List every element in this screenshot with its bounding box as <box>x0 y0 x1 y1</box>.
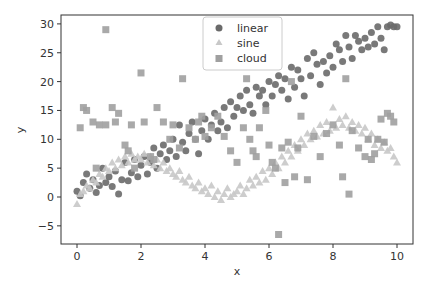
data-point <box>234 159 241 166</box>
data-point <box>307 72 314 79</box>
data-point <box>112 118 119 125</box>
data-point <box>214 127 221 134</box>
data-point <box>326 52 333 59</box>
data-point <box>381 46 388 53</box>
data-point <box>198 113 205 120</box>
data-point <box>365 43 372 50</box>
data-point <box>227 147 234 154</box>
data-point <box>330 64 337 71</box>
data-point <box>246 101 253 108</box>
data-point <box>266 142 273 149</box>
data-point <box>176 144 183 151</box>
data-point <box>166 147 173 154</box>
data-point <box>109 183 116 190</box>
data-point <box>243 87 250 94</box>
data-point <box>355 38 362 45</box>
y-axis-ticks: −5051015202530 <box>38 18 61 233</box>
data-point <box>336 46 343 53</box>
circle-marker-icon <box>216 25 223 32</box>
data-point <box>240 107 247 114</box>
data-point <box>310 133 317 140</box>
data-point <box>317 81 324 88</box>
data-point <box>346 43 353 50</box>
data-point <box>285 139 292 146</box>
data-point <box>272 165 279 172</box>
data-point <box>294 144 301 151</box>
y-tick-label: 5 <box>47 162 54 175</box>
data-point <box>329 104 337 111</box>
data-point <box>186 124 193 131</box>
data-point <box>90 118 97 125</box>
data-point <box>298 75 305 82</box>
x-axis-label: x <box>234 265 241 278</box>
data-point <box>221 104 228 111</box>
data-point <box>73 200 81 207</box>
data-point <box>275 72 282 79</box>
data-point <box>170 121 177 128</box>
data-point <box>138 162 145 169</box>
data-point <box>160 118 167 125</box>
data-point <box>358 46 365 53</box>
legend-label-cloud: cloud <box>237 52 267 65</box>
data-point <box>368 29 375 36</box>
data-point <box>362 153 369 160</box>
data-point <box>230 113 237 120</box>
data-point <box>381 139 388 146</box>
data-point <box>77 124 84 131</box>
data-point <box>83 170 90 177</box>
data-point <box>118 176 125 183</box>
data-point <box>304 55 311 62</box>
data-point <box>185 173 193 180</box>
x-tick-label: 10 <box>390 250 404 263</box>
data-point <box>83 107 90 114</box>
data-point <box>310 49 317 56</box>
y-tick-label: 25 <box>40 47 54 60</box>
y-tick-label: 0 <box>47 191 54 204</box>
data-point <box>323 130 330 137</box>
data-point <box>202 133 209 140</box>
data-point <box>301 93 308 100</box>
data-point <box>214 113 221 120</box>
scatter-chart: 0246810 −5051015202530 x y linear sine c… <box>0 0 436 289</box>
data-point <box>253 84 260 91</box>
legend-label-sine: sine <box>237 37 260 50</box>
data-point <box>243 75 250 82</box>
data-point <box>371 41 378 48</box>
data-point <box>237 93 244 100</box>
data-point <box>93 165 100 172</box>
data-point <box>298 113 305 120</box>
data-point <box>349 127 356 134</box>
data-point <box>314 61 321 68</box>
data-point <box>390 118 397 125</box>
data-point <box>221 133 228 140</box>
y-tick-label: 20 <box>40 76 54 89</box>
data-point <box>278 87 285 94</box>
data-point <box>259 87 266 94</box>
legend-label-linear: linear <box>237 22 269 35</box>
data-point <box>374 136 381 143</box>
data-point <box>102 121 109 128</box>
data-point <box>236 181 244 188</box>
data-point <box>346 191 353 198</box>
y-tick-label: 10 <box>40 133 54 146</box>
data-point <box>195 179 203 186</box>
data-point <box>291 173 298 180</box>
y-tick-label: 15 <box>40 104 54 117</box>
x-tick-label: 0 <box>74 250 81 263</box>
data-point <box>192 136 199 143</box>
data-point <box>285 95 292 102</box>
data-point <box>342 75 349 82</box>
data-point <box>269 93 276 100</box>
data-point <box>374 23 381 30</box>
data-point <box>342 112 350 119</box>
data-point <box>207 181 215 188</box>
data-point <box>125 177 132 184</box>
data-point <box>371 150 378 157</box>
data-point <box>93 189 100 196</box>
data-point <box>365 136 372 143</box>
data-point <box>266 78 273 85</box>
data-point <box>288 78 295 85</box>
x-tick-label: 8 <box>330 250 337 263</box>
data-point <box>362 35 369 42</box>
data-point <box>349 55 356 62</box>
